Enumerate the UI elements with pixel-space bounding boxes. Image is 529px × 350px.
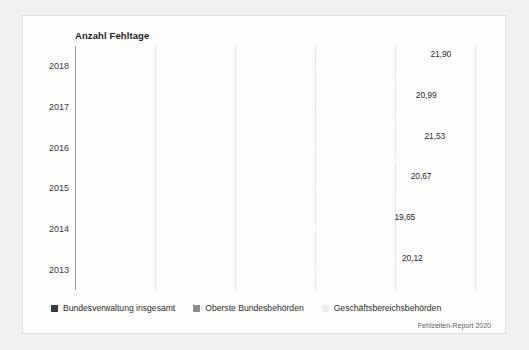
bar-row: 20,67	[76, 171, 407, 182]
bar-value-label: 20,99	[416, 90, 437, 100]
bar-group: 20,9916,50201720,55	[75, 87, 475, 128]
legend-label: Bundesverwaltung insgesamt	[63, 303, 175, 313]
bar-value-label: 21,35	[394, 73, 415, 83]
bar-row: 21,35	[76, 73, 418, 84]
bar-row: 20,99	[76, 89, 412, 100]
bar-row: 20,55	[76, 113, 405, 124]
chart-title: Anzahl Fehltage	[75, 30, 149, 41]
legend-item[interactable]: Bundesverwaltung insgesamt	[51, 303, 175, 313]
bar-value-label: 20,25	[376, 195, 397, 205]
source-attribution: Fehlzeiten-Report 2020	[418, 322, 491, 329]
bar-value-label: 16,36	[314, 61, 335, 71]
chart-legend: Bundesverwaltung insgesamtOberste Bundes…	[51, 303, 441, 313]
gridline	[475, 46, 476, 290]
legend-label: Oberste Bundesbehörden	[205, 303, 303, 313]
bar-row: 19,65	[76, 211, 390, 222]
bar-value-label: 19,75	[368, 277, 389, 287]
category-label: 2014	[49, 224, 69, 234]
legend-item[interactable]: Oberste Bundesbehörden	[193, 303, 303, 313]
category-label: 2017	[49, 102, 69, 112]
bar-row: 16,502017	[76, 101, 340, 112]
bar-row: 21,90	[76, 49, 426, 60]
bar-row: 16,242015	[76, 183, 336, 194]
bar-value-label: 16,24	[312, 183, 333, 193]
bar-group: 20,6716,24201520,25	[75, 168, 475, 209]
bar-value-label: 21,53	[424, 131, 445, 141]
bar-value-label: 15,23	[296, 224, 317, 234]
category-label: 2013	[49, 265, 69, 275]
bar-row: 16,362018	[76, 61, 338, 72]
bar-value-label: 20,67	[411, 171, 432, 181]
bar-row: 15,942013	[76, 264, 331, 275]
legend-swatch-icon	[193, 305, 200, 312]
bar-group: 21,9016,36201821,35	[75, 46, 475, 87]
legend-label: Geschäftsbereichsbehörden	[334, 303, 442, 313]
legend-swatch-icon	[322, 305, 329, 312]
category-label: 2015	[49, 183, 69, 193]
bar-row: 16,202016	[76, 142, 335, 153]
bar-row: 20,12	[76, 252, 398, 263]
category-label: 2016	[49, 143, 69, 153]
bar-row: 21,01	[76, 154, 412, 165]
bar-value-label: 16,50	[316, 102, 337, 112]
bar-row: 20,25	[76, 195, 400, 206]
bar-value-label: 21,90	[430, 49, 451, 59]
legend-item[interactable]: Geschäftsbereichsbehörden	[322, 303, 442, 313]
legend-swatch-icon	[51, 305, 58, 312]
plot-area: 21,9016,36201821,3520,9916,50201720,5521…	[75, 46, 475, 290]
chart-card: Anzahl Fehltage 21,9016,36201821,3520,99…	[22, 15, 506, 334]
bar-row: 15,232014	[76, 223, 320, 234]
bar-row: 19,75	[76, 276, 392, 287]
bar-value-label: 21,01	[388, 155, 409, 165]
bar-group: 21,5316,20201621,01	[75, 127, 475, 168]
bar-value-label: 15,94	[307, 265, 328, 275]
bar-value-label: 16,20	[311, 143, 332, 153]
bar-group: 19,6515,23201419,25	[75, 209, 475, 250]
bar-value-label: 20,12	[402, 253, 423, 263]
category-label: 2018	[49, 61, 69, 71]
bar-group: 20,1215,94201319,75	[75, 249, 475, 290]
bar-row: 19,25	[76, 235, 384, 246]
bar-value-label: 19,25	[360, 236, 381, 246]
bar-value-label: 20,55	[381, 114, 402, 124]
bar-value-label: 19,65	[394, 212, 415, 222]
bar-row: 21,53	[76, 130, 420, 141]
